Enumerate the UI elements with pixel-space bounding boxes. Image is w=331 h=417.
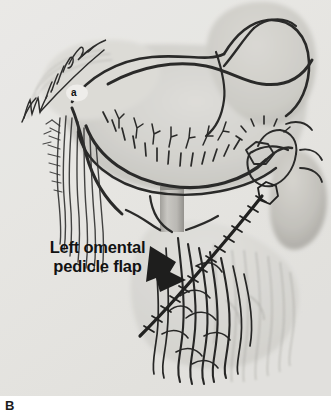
surgical-illustration — [0, 0, 331, 396]
annotation-left-omental-pedicle-flap: Left omental pedicle flap — [30, 238, 165, 276]
annotation-line-2: pedicle flap — [30, 257, 165, 276]
halftone-plate: a Left omental pedicle flap — [0, 0, 331, 396]
vessel-label-a: a — [71, 88, 77, 98]
halftone-grain — [0, 0, 331, 396]
panel-letter-b: B — [5, 398, 15, 414]
annotation-line-1: Left omental — [30, 238, 165, 257]
figure-panel-b: a Left omental pedicle flap B — [0, 0, 331, 417]
